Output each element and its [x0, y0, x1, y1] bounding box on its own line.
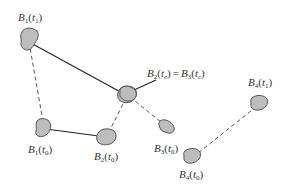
- label-b4-t0: B4(t0): [179, 168, 203, 182]
- label-b1-t1: B1(t1): [18, 11, 42, 25]
- blob-b3-t0: [159, 120, 174, 133]
- path-b1-t1-to-center: [29, 42, 126, 95]
- blob-b4-t1: [251, 95, 268, 110]
- blob-b4-t0: [184, 148, 201, 163]
- blob-b1-t1: [21, 28, 39, 50]
- blob-b2-t0: [97, 129, 116, 145]
- label-center-collision: B2(tc)=B3(tc): [147, 67, 205, 81]
- label-b4-t1: B4(t1): [248, 76, 272, 90]
- blob-center-collision: [118, 86, 137, 103]
- center-label-leader: [134, 80, 156, 90]
- label-b3-t0: B3(t0): [154, 142, 178, 156]
- path-b1-dashed: [29, 42, 44, 127]
- path-b4-t0-to-b4-t1: [193, 103, 261, 157]
- blob-b1-t0: [36, 119, 51, 137]
- label-b1-t0: B1(t0): [28, 143, 52, 157]
- label-b2-t0: B2(t0): [94, 150, 118, 164]
- collision-diagram: B1(t1) B2(tc)=B3(tc) B1(t0) B2(t0) B3(t0…: [0, 0, 291, 192]
